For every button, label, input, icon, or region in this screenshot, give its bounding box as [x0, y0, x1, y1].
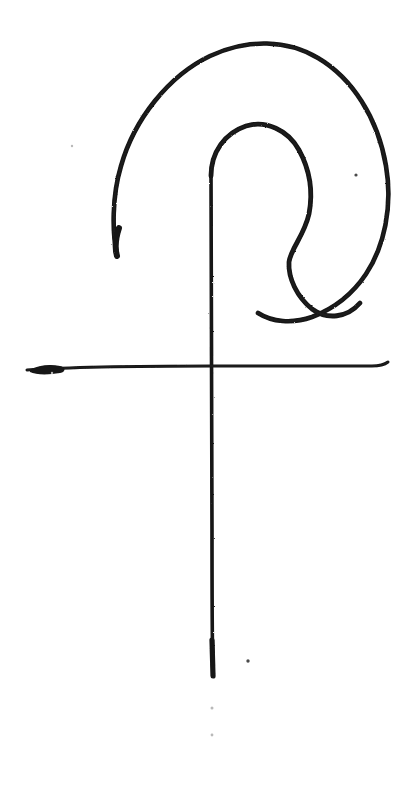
faint-paper-speck [211, 734, 214, 737]
outer-spiral-tail-thickening [116, 228, 119, 256]
stem-base-thickening [212, 640, 213, 676]
faint-paper-speck [51, 372, 53, 374]
ink-speck [246, 659, 249, 662]
drawing-canvas [0, 0, 407, 790]
vertical-stem-stroke [211, 172, 213, 676]
hand-drawn-glyph [0, 0, 407, 790]
ink-speck [354, 173, 357, 176]
faint-paper-speck [71, 145, 73, 147]
faint-paper-speck [211, 707, 214, 710]
paper-background [0, 0, 407, 790]
